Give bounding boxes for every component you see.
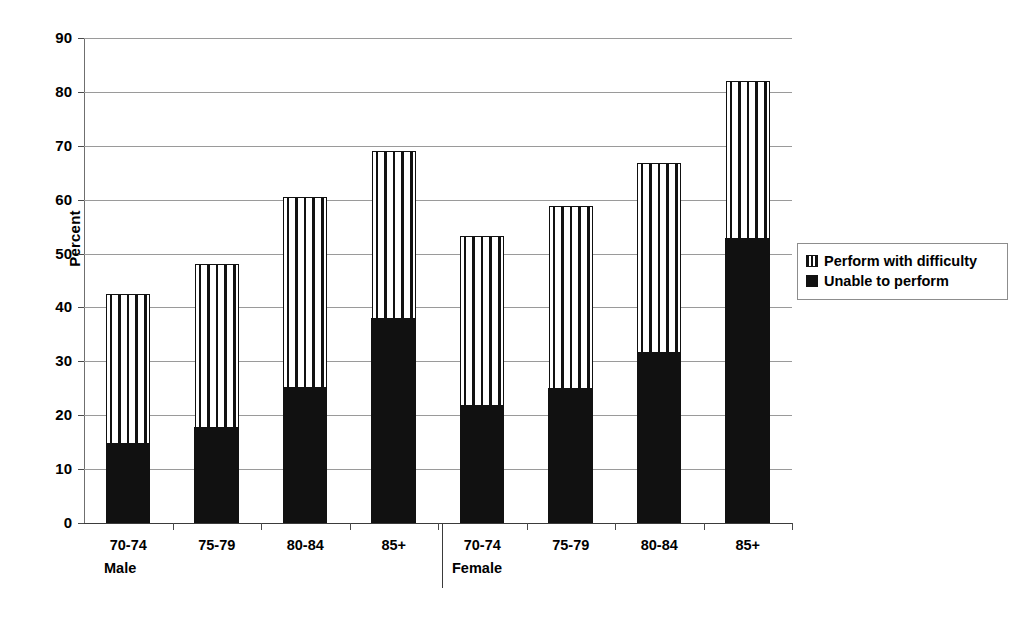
bar-segment-unable-to-perform [460, 405, 504, 524]
gridline [84, 361, 792, 362]
y-tick-label: 50 [26, 246, 72, 261]
gridline [84, 200, 792, 201]
x-axis-category-label: 85+ [693, 536, 803, 556]
bar-80-84 [637, 163, 681, 523]
bar-segment-unable-to-perform [194, 427, 238, 523]
solid-square-icon [806, 275, 818, 287]
y-tick-mark [78, 469, 84, 470]
y-tick-label: 70 [26, 138, 72, 153]
legend-item-perform-with-difficulty: Perform with difficulty [806, 251, 999, 271]
bar-85plus [726, 81, 770, 523]
y-tick-mark [78, 38, 84, 39]
y-axis-line [84, 38, 85, 524]
gridline [84, 92, 792, 93]
x-tick-mark [261, 523, 262, 530]
legend-item-label: Perform with difficulty [824, 254, 977, 269]
bar-segment-unable-to-perform [106, 443, 150, 524]
y-tick-label: 40 [26, 299, 72, 314]
bar-75-79 [195, 264, 239, 523]
y-tick-label: 30 [26, 353, 72, 368]
x-tick-mark [704, 523, 705, 530]
x-tick-mark [173, 523, 174, 530]
bar-segment-unable-to-perform [725, 238, 769, 524]
y-tick-mark [78, 200, 84, 201]
gridline [84, 415, 792, 416]
bar-85plus [372, 151, 416, 523]
y-tick-label: 0 [26, 515, 72, 530]
legend-item-label: Unable to perform [824, 274, 949, 289]
y-tick-mark [78, 254, 84, 255]
gridline [84, 469, 792, 470]
x-tick-mark [527, 523, 528, 530]
y-tick-label: 20 [26, 407, 72, 422]
striped-square-icon [806, 255, 818, 267]
group-label-female: Female [452, 559, 502, 579]
gridline [84, 307, 792, 308]
stacked-bar-chart: Percent 9080706050403020100 70-7475-7980… [0, 0, 1023, 619]
bar-70-74 [460, 236, 504, 523]
y-tick-mark [78, 92, 84, 93]
bar-segment-unable-to-perform [283, 387, 327, 523]
y-tick-label: 10 [26, 461, 72, 476]
gridline [84, 38, 792, 39]
bar-75-79 [549, 206, 593, 523]
legend: Perform with difficulty Unable to perfor… [797, 243, 1008, 300]
y-tick-label: 90 [26, 30, 72, 45]
y-tick-mark [78, 415, 84, 416]
group-label-male: Male [104, 559, 136, 579]
x-tick-mark [350, 523, 351, 530]
x-tick-mark [438, 523, 439, 530]
bar-segment-unable-to-perform [637, 352, 681, 523]
y-tick-mark [78, 307, 84, 308]
bar-70-74 [106, 294, 150, 523]
bar-80-84 [283, 197, 327, 523]
x-tick-mark [615, 523, 616, 530]
x-tick-mark [792, 523, 793, 530]
bar-segment-unable-to-perform [371, 318, 415, 524]
y-tick-mark [78, 146, 84, 147]
y-tick-label: 60 [26, 192, 72, 207]
plot-area [84, 38, 792, 523]
group-divider [442, 524, 443, 588]
y-tick-label: 80 [26, 84, 72, 99]
gridline [84, 254, 792, 255]
legend-item-unable-to-perform: Unable to perform [806, 271, 999, 291]
gridline [84, 146, 792, 147]
bar-segment-unable-to-perform [548, 388, 592, 524]
y-tick-mark [78, 361, 84, 362]
y-tick-mark [78, 523, 84, 524]
